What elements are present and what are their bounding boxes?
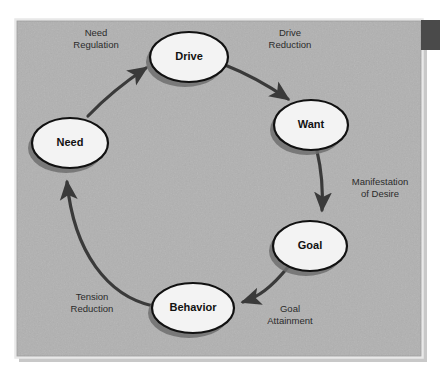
node-label-goal: Goal	[298, 239, 322, 251]
edge-label-text-behavior-to-need: TensionReduction	[71, 291, 114, 314]
node-label-behavior: Behavior	[169, 301, 217, 313]
node-label-want: Want	[298, 118, 325, 130]
corner-accent-block	[421, 20, 440, 50]
cycle-diagram-svg: DriveWantGoalBehaviorNeed NeedRegulation…	[0, 0, 440, 373]
diagram-canvas: DriveWantGoalBehaviorNeed NeedRegulation…	[0, 0, 440, 373]
edge-label-behavior-to-need: TensionReduction	[71, 291, 114, 314]
node-label-need: Need	[57, 136, 84, 148]
node-label-drive: Drive	[175, 50, 203, 62]
